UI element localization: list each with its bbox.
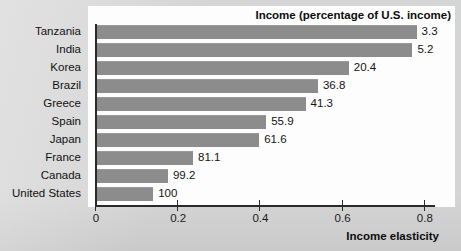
bar [96, 97, 306, 111]
x-tick-label: 0.8 [405, 212, 445, 224]
bar-row: Greece41.3 [0, 96, 461, 114]
bar-row: Japan61.6 [0, 132, 461, 150]
bar [96, 169, 168, 183]
chart-title: Income (percentage of U.S. income) [255, 9, 451, 21]
bar-value-label: 100 [158, 187, 177, 199]
bar-value-label: 3.3 [422, 25, 438, 37]
x-tick-label: 0.2 [158, 212, 198, 224]
category-label: Greece [0, 97, 81, 109]
bar-row: Korea20.4 [0, 60, 461, 78]
bar-value-label: 5.2 [417, 43, 433, 55]
x-tick [342, 200, 343, 211]
bar-value-label: 36.8 [323, 79, 345, 91]
category-label: France [0, 151, 81, 163]
category-label: Tanzania [0, 25, 81, 37]
bar [96, 133, 259, 147]
bar [96, 79, 318, 93]
category-label: Korea [0, 61, 81, 73]
x-axis-title: Income elasticity [346, 230, 439, 242]
bar-value-label: 20.4 [354, 61, 376, 73]
bar [96, 61, 349, 75]
bar-rows: Tanzania3.3India5.2Korea20.4Brazil36.8Gr… [0, 24, 461, 204]
category-label: Spain [0, 115, 81, 127]
bar [96, 187, 153, 201]
x-tick [95, 200, 96, 211]
x-tick-label: 0.4 [240, 212, 280, 224]
bar [96, 151, 193, 165]
chart-figure: Income (percentage of U.S. income) Tanza… [0, 0, 461, 251]
bar-row: United States100 [0, 186, 461, 204]
bar-row: India5.2 [0, 42, 461, 60]
x-tick [177, 200, 178, 211]
bar [96, 25, 417, 39]
bar-row: Tanzania3.3 [0, 24, 461, 42]
bar-value-label: 55.9 [271, 115, 293, 127]
x-tick-label: 0.6 [323, 212, 363, 224]
category-label: Canada [0, 169, 81, 181]
category-label: Brazil [0, 79, 81, 91]
category-label: Japan [0, 133, 81, 145]
bar-value-label: 61.6 [264, 133, 286, 145]
bar-row: Spain55.9 [0, 114, 461, 132]
x-tick-label: 0 [76, 212, 116, 224]
bar-value-label: 41.3 [311, 97, 333, 109]
bar-row: France81.1 [0, 150, 461, 168]
bar-row: Canada99.2 [0, 168, 461, 186]
bar [96, 43, 412, 57]
category-label: United States [0, 187, 81, 199]
bar-value-label: 99.2 [173, 169, 195, 181]
x-tick [424, 200, 425, 211]
category-label: India [0, 43, 81, 55]
bar [96, 115, 266, 129]
x-tick [259, 200, 260, 211]
y-axis-line [95, 24, 97, 206]
x-axis-line [95, 205, 435, 207]
bar-row: Brazil36.8 [0, 78, 461, 96]
bar-value-label: 81.1 [198, 151, 220, 163]
